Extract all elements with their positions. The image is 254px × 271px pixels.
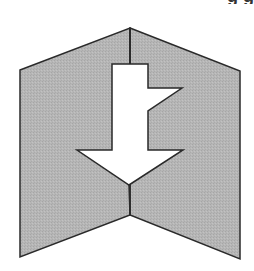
center-fold-line-bottom (129, 185, 130, 215)
folded-card-diagram (0, 0, 254, 271)
